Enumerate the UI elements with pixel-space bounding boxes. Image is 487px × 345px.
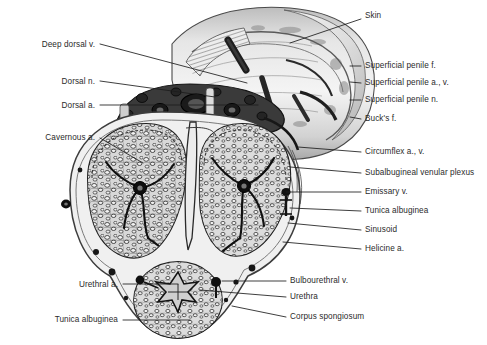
- label-subalbugineal-venular-plexus: Subalbugineal venular plexus: [365, 168, 474, 177]
- label-bucks-f: Buck's f.: [365, 114, 396, 123]
- label-superficial-penile-f: Superficial penile f.: [365, 61, 436, 70]
- label-superficial-penile-n: Superficial penile n.: [365, 95, 438, 104]
- label-sinusoid: Sinusoid: [365, 225, 397, 234]
- label-urethra: Urethra: [290, 292, 318, 301]
- label-tunica-albuginea-l: Tunica albuginea: [0, 315, 118, 324]
- label-deep-dorsal-v: Deep dorsal v.: [0, 40, 95, 49]
- label-skin: Skin: [365, 11, 381, 20]
- label-corpus-spongiosum: Corpus spongiosum: [290, 312, 364, 321]
- anatomical-figure: Deep dorsal v.Dorsal n.Dorsal a.Cavernou…: [0, 0, 487, 345]
- label-helicine-a: Helicine a.: [365, 244, 404, 253]
- label-urethral-a: Urethral a.: [0, 280, 118, 289]
- label-dorsal-n: Dorsal n.: [0, 77, 95, 86]
- label-cavernous-a: Cavernous a.: [0, 133, 95, 142]
- label-bulbourethral-v: Bulbourethral v.: [290, 276, 348, 285]
- label-circumflex-a-v: Circumflex a., v.: [365, 147, 424, 156]
- label-dorsal-a: Dorsal a.: [0, 101, 95, 110]
- label-superficial-penile-a-v: Superficial penile a., v.: [365, 78, 449, 87]
- label-tunica-albuginea-r: Tunica albuginea: [365, 206, 428, 215]
- label-emissary-v: Emissary v.: [365, 187, 408, 196]
